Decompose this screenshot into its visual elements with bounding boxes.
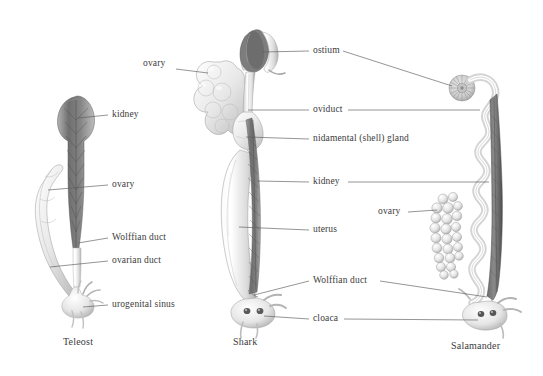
- leader-wolffian-shark: [254, 281, 309, 295]
- label-ovary-teleost: ovary: [112, 179, 134, 189]
- leader-uterus: [239, 227, 309, 230]
- salamander-ovary: [430, 192, 463, 279]
- label-kidney-teleost: kidney: [112, 109, 139, 119]
- leader-kidney-shark: [257, 181, 309, 182]
- label-wolffian-shared: Wolffian duct: [313, 275, 367, 285]
- caption-teleost: Teleost: [63, 336, 93, 347]
- label-oviduct: oviduct: [313, 104, 343, 114]
- leader-ostium-salamander: [343, 51, 452, 86]
- leader-wolffian-salamander: [380, 281, 487, 297]
- teleost-wolffian-duct: [73, 248, 81, 287]
- label-nidamental-gland: nidamental (shell) gland: [313, 133, 409, 143]
- diagram-canvas: [0, 0, 543, 376]
- caption-shark: Shark: [233, 336, 257, 347]
- label-ovary-salamander: ovary: [378, 206, 400, 216]
- label-urogenital-sinus: urogenital sinus: [112, 299, 175, 309]
- leader-cloaca-salamander: [344, 319, 478, 320]
- label-kidney-shark: kidney: [313, 176, 340, 186]
- label-uterus: uterus: [313, 224, 337, 234]
- leader-wolffian-teleost: [78, 238, 108, 243]
- label-ostium: ostium: [313, 45, 340, 55]
- shark-cloaca: [231, 295, 286, 338]
- label-cloaca: cloaca: [313, 313, 338, 323]
- label-ovary-shark: ovary: [143, 58, 165, 68]
- anatomical-figure: ovary kidney ovary Wolffian duct ovarian…: [0, 0, 543, 376]
- specimen-salamander: [430, 75, 521, 338]
- specimen-shark: [194, 30, 286, 338]
- caption-salamander: Salamander: [451, 340, 500, 351]
- teleost-kidney: [57, 96, 94, 250]
- label-ovarian-duct: ovarian duct: [112, 255, 161, 265]
- specimen-teleost: [35, 96, 103, 328]
- label-wolffian-teleost: Wolffian duct: [112, 232, 166, 242]
